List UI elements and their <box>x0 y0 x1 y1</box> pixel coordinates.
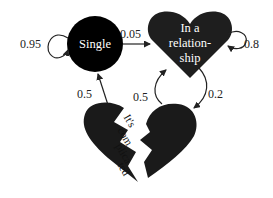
label-complicated-relationship: 0.5 <box>133 90 148 104</box>
transition-single-self: 0.95 <box>20 35 68 58</box>
single-label: Single <box>79 37 111 51</box>
label-relationship-self: 0.8 <box>244 37 259 51</box>
broken-heart-right <box>140 104 197 178</box>
state-single: Single <box>67 16 123 72</box>
markov-diagram: Single 0.95 0.05 In a relation- ship 0.8… <box>0 0 273 198</box>
transition-complicated-relationship: 0.5 <box>133 70 166 104</box>
transition-relationship-self: 0.8 <box>228 32 259 51</box>
transition-complicated-single: 0.5 <box>77 74 108 105</box>
state-complicated <box>84 103 197 182</box>
label-complicated-single: 0.5 <box>77 87 92 101</box>
label-single-self: 0.95 <box>20 37 41 51</box>
label-single-relationship: 0.05 <box>120 27 141 41</box>
relationship-label-3: ship <box>180 51 201 65</box>
relationship-label-2: relation- <box>169 36 211 50</box>
label-relationship-complicated: 0.2 <box>208 87 223 101</box>
transition-single-relationship: 0.05 <box>120 27 150 44</box>
state-relationship: In a relation- ship <box>148 12 232 79</box>
relationship-label-1: In a <box>180 21 200 35</box>
transition-relationship-complicated: 0.2 <box>194 68 223 108</box>
